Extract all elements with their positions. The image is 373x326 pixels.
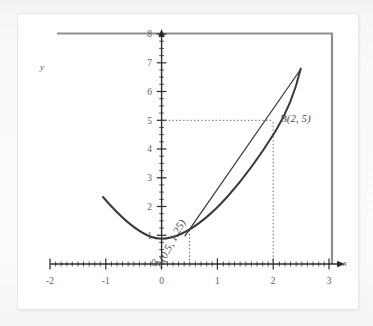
x-tick-label-2: 2 bbox=[271, 276, 276, 286]
y-tick-label-7: 7 bbox=[147, 58, 152, 68]
x-axis-name: x bbox=[342, 258, 347, 268]
x-tick-label-0: 0 bbox=[159, 276, 164, 286]
point-label-a: A(0.5, 1.25) bbox=[152, 217, 189, 271]
y-tick-label-2: 2 bbox=[147, 202, 152, 212]
x-tick-label-1: 1 bbox=[215, 276, 220, 286]
x-tick-label--1: -1 bbox=[102, 276, 110, 286]
x-tick-label-3: 3 bbox=[327, 276, 332, 286]
guide-lines bbox=[162, 120, 274, 264]
quadratic-curve bbox=[103, 69, 301, 239]
point-label-b: B(2, 5) bbox=[280, 112, 311, 125]
plot-canvas: -2 -1 0 1 2 3 x bbox=[0, 0, 373, 326]
x-axis: -2 -1 0 1 2 3 x bbox=[46, 258, 347, 286]
figure-frame bbox=[57, 34, 333, 265]
y-axis: 1 2 3 4 5 6 7 8 0 y bbox=[39, 29, 166, 268]
y-tick-label-3: 3 bbox=[147, 173, 152, 183]
y-tick-label-8: 8 bbox=[147, 29, 152, 39]
x-tick-label--2: -2 bbox=[46, 276, 54, 286]
figure-root: -2 -1 0 1 2 3 x bbox=[0, 0, 373, 326]
y-tick-label-4: 4 bbox=[147, 144, 152, 154]
y-tick-label-5: 5 bbox=[147, 116, 152, 126]
secant-line bbox=[185, 70, 301, 236]
y-tick-label-6: 6 bbox=[147, 87, 152, 97]
y-axis-name: y bbox=[39, 62, 44, 72]
